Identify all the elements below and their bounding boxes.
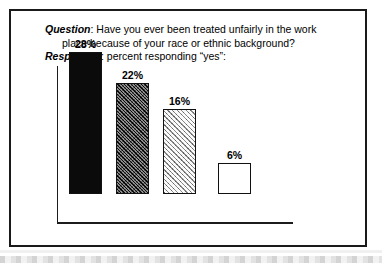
scan-artifact-faint	[0, 250, 382, 253]
bar-value-white: 6%	[210, 149, 259, 161]
bar-value-hispanic: 22%	[108, 69, 157, 81]
bar-hispanic	[116, 83, 149, 194]
bar-value-asian: 16%	[155, 95, 204, 107]
plot-area: 28% Black 22% Hispanic 16% Asian 6% Whit…	[11, 11, 369, 249]
figure-border: Question: Have you ever been treated unf…	[9, 9, 367, 247]
y-axis-line	[57, 66, 58, 223]
scan-artifact-band	[0, 256, 382, 263]
bar-value-black: 28%	[61, 38, 110, 50]
bar-white	[218, 163, 251, 194]
chart-figure: Question: Have you ever been treated unf…	[0, 0, 382, 266]
bar-black	[69, 52, 102, 194]
bar-asian	[163, 109, 196, 194]
x-axis-line	[57, 222, 293, 224]
